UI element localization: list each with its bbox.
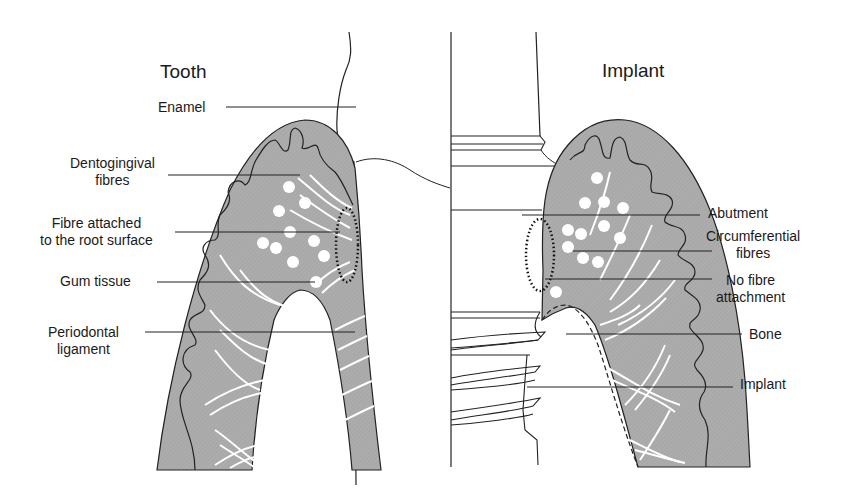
label-abutment-text: Abutment xyxy=(708,205,768,221)
label-no-fibre-line2: attachment xyxy=(716,289,785,306)
label-abutment: Abutment xyxy=(708,205,768,222)
gingival-curve xyxy=(356,159,450,188)
label-implant: Implant xyxy=(740,376,786,393)
label-no-fibre-attachment: No fibre attachment xyxy=(716,272,785,306)
label-circumferential-line2: fibres xyxy=(706,245,800,262)
label-enamel-text: Enamel xyxy=(158,99,205,115)
label-circumferential-fibres: Circumferential fibres xyxy=(706,228,800,262)
label-bone-text: Bone xyxy=(749,326,782,342)
implant-threads xyxy=(451,312,545,465)
label-gum-tissue: Gum tissue xyxy=(60,273,131,290)
label-enamel: Enamel xyxy=(158,99,205,116)
gum-tissue-shape xyxy=(157,120,381,470)
label-dentogingival-line2: fibres xyxy=(70,172,155,189)
label-dentogingival-line1: Dentogingival xyxy=(70,155,155,172)
label-no-fibre-line1: No fibre xyxy=(716,272,785,289)
tooth-title: Tooth xyxy=(160,61,206,83)
label-fibre-attached-line1: Fibre attached xyxy=(40,215,153,232)
label-dentogingival-fibres: Dentogingival fibres xyxy=(70,155,155,189)
label-periodontal-line1: Periodontal xyxy=(48,324,119,341)
label-fibre-attached-line2: to the root surface xyxy=(40,232,153,249)
abutment-right-edge xyxy=(536,32,540,136)
label-implant-text: Implant xyxy=(740,376,786,392)
label-circumferential-line1: Circumferential xyxy=(706,228,800,245)
implant-title: Implant xyxy=(602,60,664,82)
label-fibre-attached: Fibre attached to the root surface xyxy=(40,215,153,249)
label-gum-tissue-text: Gum tissue xyxy=(60,273,131,289)
label-periodontal-line2: ligament xyxy=(48,341,119,358)
label-bone: Bone xyxy=(749,326,782,343)
label-periodontal-ligament: Periodontal ligament xyxy=(48,324,119,358)
